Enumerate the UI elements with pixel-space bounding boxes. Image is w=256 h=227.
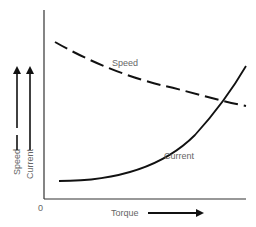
torque-speed-current-chart: Speed Current 0 Torque Speed Current: [0, 0, 256, 227]
speed-curve: [55, 42, 246, 106]
x-axis-label: Torque: [111, 208, 139, 218]
y-axis-current-label: Current: [25, 148, 35, 179]
origin-label: 0: [38, 203, 43, 213]
speed-curve-label: Speed: [112, 58, 138, 68]
y-axis-speed-label: Speed: [12, 149, 22, 175]
current-curve-label: Current: [164, 151, 195, 161]
